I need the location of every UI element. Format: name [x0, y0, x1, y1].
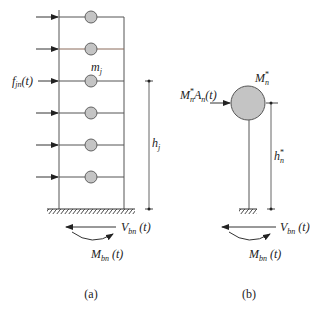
sdof-mass [231, 86, 265, 120]
sdof-height-label: h*n [274, 148, 284, 165]
sdof-height-dot-bottom [270, 208, 273, 211]
mass-2 [85, 139, 97, 151]
base-shear-label: Vbn (t) [121, 220, 151, 236]
structural-dynamics-diagram: fjn(t) mj hj Vbn (t) Mbn (t) (a) [0, 0, 319, 314]
panel-b-caption: (b) [242, 287, 256, 301]
base-moment-label: Mbn (t) [90, 247, 123, 263]
mass-4 [85, 75, 97, 87]
height-label: hj [152, 136, 161, 152]
sdof-force-label: M*nAn(t) [179, 87, 217, 104]
base-moment-arc [72, 232, 113, 240]
mass-6 [85, 11, 97, 23]
sdof-base-shear-label: Vbn (t) [280, 220, 310, 236]
mass-5 [85, 43, 97, 55]
force-label: fjn(t) [12, 74, 33, 89]
panel-a-caption: (a) [84, 287, 97, 301]
mass-label: mj [91, 60, 103, 76]
mass-3 [85, 107, 97, 119]
sdof-mass-label: M*n [254, 70, 269, 87]
ground-hatch [47, 209, 135, 214]
panel-a-multistory-frame: fjn(t) mj hj Vbn (t) Mbn (t) (a) [12, 10, 161, 301]
sdof-base-moment-label: Mbn (t) [248, 247, 281, 263]
sdof-ground-hatch [239, 209, 257, 214]
height-dimension-dot-bottom [148, 208, 151, 211]
mass-1 [85, 171, 97, 183]
sdof-base-moment-arc [229, 232, 270, 240]
sdof-height-dot-top [270, 102, 273, 105]
height-dimension-dot-top [148, 80, 151, 83]
panel-b-equivalent-sdof: M*nAn(t) M*n h*n Vbn (t) Mbn (t) (b) [179, 70, 310, 301]
